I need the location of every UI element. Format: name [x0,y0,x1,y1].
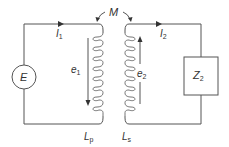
current-label-i2: I2 [160,28,167,40]
current-arrow-i2 [156,21,162,27]
mutual-arrow-right [128,17,133,22]
emf-label-e1: e1 [71,64,81,76]
load-impedance-z2: Z2 [184,57,218,95]
emf-arrow-e2 [138,36,143,42]
primary-coil-lp [86,33,104,116]
load-label: Z2 [192,69,204,82]
mutual-label: M [109,6,119,18]
mutual-arrow-left [96,17,101,22]
transformer-circuit-diagram: E I1 e1 Lp e2 Ls I2 Z2 M [0,0,229,147]
emf-label-e2: e2 [137,68,147,80]
mutual-inductance-m: M [96,6,133,22]
current-label-i1: I1 [56,28,63,40]
voltage-source-e: E [12,65,36,89]
source-label: E [20,71,28,83]
emf-arrow-e1 [86,100,91,106]
inductor-label-ls: Ls [122,131,132,143]
inductor-label-lp: Lp [84,131,94,144]
current-arrow-i1 [58,21,64,27]
